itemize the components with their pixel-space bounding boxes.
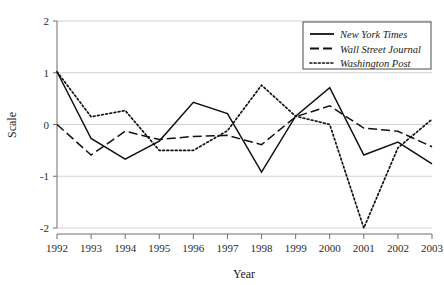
y-tick-label: 2: [44, 15, 50, 27]
x-tick-label: 1995: [148, 242, 171, 254]
legend-label: Wall Street Journal: [340, 44, 421, 55]
legend: New York TimesWall Street JournalWashing…: [303, 22, 431, 69]
x-tick-label: 1997: [216, 242, 239, 254]
y-axis-title: Scale: [5, 112, 19, 138]
x-tick-label: 2000: [319, 242, 342, 254]
x-tick-label: 1994: [114, 242, 137, 254]
y-tick-label: 1: [44, 67, 50, 79]
x-tick-label: 2001: [353, 242, 375, 254]
legend-label: New York Times: [339, 29, 407, 40]
x-axis-title: Year: [233, 267, 255, 281]
y-tick-label: -1: [40, 170, 49, 182]
x-tick-label: 2003: [421, 242, 444, 254]
y-tick-label: -2: [40, 222, 49, 234]
legend-label: Washington Post: [340, 58, 412, 69]
x-tick-label: 1999: [285, 242, 308, 254]
line-chart: 210-1-2 19921993199419951996199719981999…: [0, 0, 444, 285]
x-tick-label: 1993: [80, 242, 103, 254]
chart-figure: 210-1-2 19921993199419951996199719981999…: [0, 0, 444, 285]
x-tick-label: 1998: [251, 242, 274, 254]
x-tick-label: 1992: [46, 242, 68, 254]
x-tick-label: 1996: [182, 242, 205, 254]
x-tick-label: 2002: [387, 242, 409, 254]
y-tick-label: 0: [44, 119, 50, 131]
